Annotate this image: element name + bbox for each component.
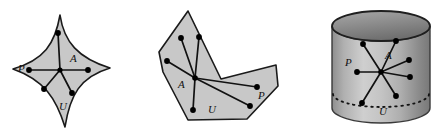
- label-region-u: U: [59, 100, 68, 112]
- astroid-panel: A P U: [13, 15, 110, 127]
- spoke-dot: [407, 74, 413, 80]
- spoke-dot: [190, 107, 196, 113]
- label-center-a: A: [69, 52, 77, 64]
- center-dot: [57, 67, 62, 72]
- label-point-p: P: [344, 56, 352, 68]
- spoke-dot: [85, 67, 91, 73]
- spoke-dot: [69, 90, 75, 96]
- label-point-p: P: [257, 89, 265, 101]
- spoke-dot: [247, 103, 253, 109]
- cylinder-panel: A P U: [332, 11, 430, 123]
- label-point-p: P: [17, 62, 25, 74]
- figure-panel: A P U A: [0, 0, 434, 133]
- polygon-region-outline: [159, 11, 278, 120]
- spoke-dot: [360, 41, 366, 47]
- label-center-a: A: [384, 49, 392, 61]
- spoke-dot: [393, 93, 399, 99]
- spoke-dot: [55, 30, 61, 36]
- spoke-dot: [164, 58, 170, 64]
- label-region-u: U: [379, 105, 388, 117]
- label-region-u: U: [208, 103, 217, 115]
- polygon-panel: A P U: [159, 11, 278, 120]
- spoke-dot: [359, 100, 365, 106]
- spoke-dot: [406, 57, 412, 63]
- cylinder-top-ellipse: [332, 11, 430, 41]
- spoke-dot: [26, 67, 32, 73]
- figures-svg: A P U A: [0, 0, 434, 133]
- spoke-dot: [354, 69, 360, 75]
- spoke-dot: [196, 34, 202, 40]
- label-center-a: A: [177, 78, 185, 90]
- spoke-dot: [393, 38, 399, 44]
- spoke-dot: [41, 86, 47, 92]
- center-dot: [378, 69, 384, 75]
- center-dot: [192, 75, 198, 81]
- spoke-dot: [178, 35, 184, 41]
